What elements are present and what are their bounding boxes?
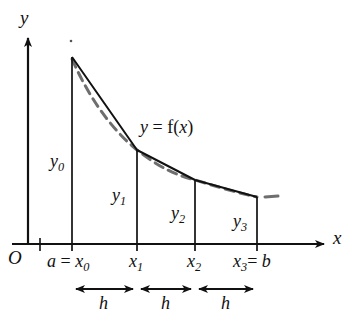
tick-label-x0-equals: = (61, 251, 71, 271)
tick-label-x3-suffix: b (262, 251, 271, 271)
curve-equation-y: y (140, 117, 148, 137)
ordinate-label-y3-sub: 3 (241, 220, 247, 234)
ordinate-label-y2-base: y (171, 203, 179, 223)
ordinate-label-y1-sub: 1 (120, 194, 126, 208)
tick-label-x0-sub: 0 (83, 260, 89, 274)
ordinate-label-y2: y2 (171, 204, 185, 225)
interval-label-h-3: h (221, 294, 230, 312)
curve-equation-arg: x (179, 117, 187, 137)
tick-label-x1-sub: 1 (137, 260, 143, 274)
ordinate-label-y2-sub: 2 (179, 212, 185, 226)
y-axis-label: y (20, 8, 28, 27)
tick-label-x1: x1 (129, 252, 143, 273)
ordinate-label-y0-sub: 0 (58, 160, 64, 174)
tick-label-x0-prefix: a (47, 251, 56, 271)
ordinate-label-y1-base: y (112, 185, 120, 205)
curve-equation-equals: = (153, 117, 163, 137)
x-axis-label: x (333, 228, 341, 247)
ordinate-label-y0-base: y (50, 151, 58, 171)
tick-label-x2: x2 (187, 252, 201, 273)
interval-label-h-2: h (161, 294, 170, 312)
trapezoidal-rule-figure: y x O y = f(x) y0 y1 y2 y3 a = x0 x1 x2 … (0, 0, 353, 324)
pen-dot-mark (70, 40, 73, 43)
ordinate-label-y3: y3 (233, 212, 247, 233)
curve-equation-label: y = f(x) (140, 118, 193, 136)
ordinate-label-y0: y0 (50, 152, 64, 173)
ordinate-label-y3-base: y (233, 211, 241, 231)
tick-label-x0-base: x (75, 251, 83, 271)
curve-equation-close-paren: ) (187, 117, 193, 137)
tick-label-x2-base: x (187, 251, 195, 271)
interval-label-h-1: h (99, 294, 108, 312)
curve-tail-dash (265, 196, 278, 197)
ordinate-label-y1: y1 (112, 186, 126, 207)
tick-label-x3: x3= b (233, 252, 271, 273)
tick-label-x1-base: x (129, 251, 137, 271)
origin-label: O (8, 248, 22, 267)
tick-label-x3-equals: = (247, 251, 257, 271)
tick-label-x0: a = x0 (47, 252, 89, 273)
tick-label-x2-sub: 2 (195, 260, 201, 274)
tick-label-x3-base: x (233, 251, 241, 271)
